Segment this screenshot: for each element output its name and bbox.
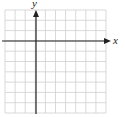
grid-lines	[5, 10, 106, 113]
y-axis-label: y	[32, 0, 37, 9]
y-axis-arrow-icon	[33, 10, 39, 17]
coordinate-plane	[0, 0, 125, 117]
x-axis-label: x	[113, 35, 118, 46]
x-axis-arrow-icon	[104, 38, 111, 44]
